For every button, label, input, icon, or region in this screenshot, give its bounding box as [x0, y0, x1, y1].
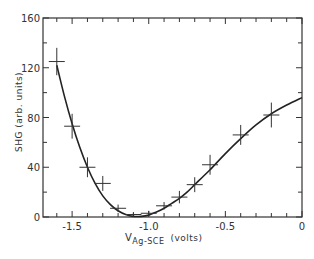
y-axis-label: SHG (arb. units): [14, 72, 24, 152]
x-tick-labels: -1.5-1.0-0.50: [62, 221, 305, 232]
x-axis-label-units: (volts): [171, 233, 203, 243]
data-point: [156, 202, 172, 209]
data-point: [141, 211, 157, 216]
y-tick-label: 0: [34, 212, 40, 223]
x-tick-label: -1.0: [139, 221, 159, 232]
data-point: [263, 103, 279, 128]
data-point: [202, 155, 218, 175]
y-tick-label: 80: [27, 113, 40, 124]
x-tick-label: 0: [299, 221, 305, 232]
x-axis-label-sub: Ag-SCE: [132, 237, 164, 246]
y-tick-label: 160: [21, 13, 40, 24]
data-points: [49, 48, 280, 217]
x-axis-label-main: V: [125, 232, 132, 243]
axis-ticks: [43, 18, 302, 217]
x-axis-label: VAg-SCE(volts): [125, 232, 203, 246]
shg-vs-potential-chart: -1.5-1.0-0.50 04080120160 SHG (arb. unit…: [0, 0, 314, 259]
data-point: [79, 157, 95, 177]
plot-frame: [43, 18, 302, 217]
data-point: [49, 48, 65, 75]
data-point: [64, 114, 80, 139]
x-tick-label: -1.5: [62, 221, 82, 232]
data-point: [233, 125, 249, 145]
y-tick-label: 40: [27, 162, 40, 173]
x-tick-label: -0.5: [216, 221, 236, 232]
